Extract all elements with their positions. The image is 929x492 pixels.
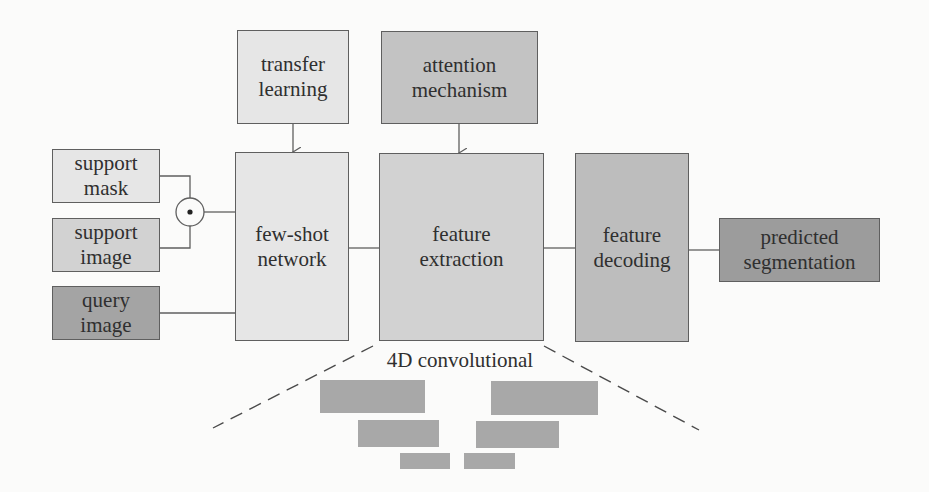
few-shot-network-box: few-shot network [235, 152, 349, 341]
attention-mechanism-box: attention mechanism [381, 31, 538, 124]
conv-layer-2-right [476, 421, 559, 448]
conv-layer-2-left [358, 420, 439, 447]
transfer-learning-label: transfer learning [259, 52, 328, 102]
support-mask-box: support mask [52, 149, 160, 203]
feature-extraction-box: feature extraction [379, 153, 544, 341]
support-image-box: support image [52, 218, 160, 272]
transfer-learning-box: transfer learning [237, 30, 349, 124]
conv-layer-1-right [491, 381, 598, 415]
few-shot-network-label: few-shot network [255, 222, 328, 272]
support-mask-label: support mask [75, 151, 138, 201]
feature-decoding-box: feature decoding [575, 153, 689, 342]
query-image-box: query image [52, 286, 160, 340]
attention-mechanism-label: attention mechanism [412, 53, 508, 103]
predicted-segmentation-label: predicted segmentation [744, 225, 856, 275]
conv-layer-3-right [464, 453, 515, 469]
query-image-label: query image [80, 288, 131, 338]
predicted-segmentation-box: predicted segmentation [719, 218, 880, 282]
line-mask-to-product [160, 176, 190, 198]
4d-convolutional-label: 4D convolutional [360, 348, 560, 373]
conv-layer-1-left [320, 380, 425, 413]
line-image-to-product [160, 226, 190, 248]
feature-extraction-label: feature extraction [420, 222, 504, 272]
support-image-label: support image [75, 220, 138, 270]
conv-layer-3-left [400, 453, 450, 469]
feature-decoding-label: feature decoding [594, 223, 671, 273]
